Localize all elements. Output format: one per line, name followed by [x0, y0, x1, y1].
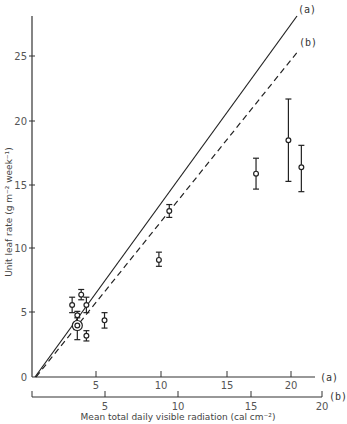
x-a-tick-label-20: 20	[285, 380, 298, 391]
x-a-tick-label-5: 5	[93, 380, 99, 391]
x-axis-a-label: (a)	[320, 372, 338, 383]
chart: 5 10 15 20 25 0 Unit leaf rate (g m⁻² we…	[0, 0, 347, 424]
point-marker	[299, 165, 304, 170]
point-marker	[79, 292, 84, 297]
x-axis-b-ticks	[32, 391, 322, 397]
point-marker	[75, 323, 80, 328]
y-tick-label-10: 10	[14, 243, 27, 254]
data-point	[69, 297, 75, 312]
y-axis-title: Unit leaf rate (g m⁻² week⁻¹)	[4, 147, 14, 277]
point-marker	[84, 333, 89, 338]
line-a-label: (a)	[298, 4, 316, 15]
x-b-tick-label-10: 10	[172, 401, 185, 412]
point-marker	[286, 138, 291, 143]
point-marker	[84, 303, 89, 308]
data-point	[298, 145, 304, 191]
x-b-tick-label-15: 15	[245, 401, 258, 412]
origin-label: 0	[21, 372, 27, 383]
x-axis-a-ticks	[96, 371, 291, 377]
y-tick-label-5: 5	[21, 307, 27, 318]
data-point	[156, 252, 162, 266]
x-axis-title: Mean total daily visible radiation (cal …	[81, 412, 276, 422]
data-point	[78, 289, 84, 299]
point-marker	[70, 303, 75, 308]
data-point	[83, 297, 89, 312]
point-marker	[102, 318, 107, 323]
data-point	[166, 205, 172, 218]
data-point	[285, 99, 291, 181]
data-points	[69, 99, 304, 341]
x-a-tick-label-10: 10	[155, 380, 168, 391]
line-b-label: (b)	[299, 37, 317, 48]
point-marker	[157, 257, 162, 262]
y-tick-label-15: 15	[14, 180, 27, 191]
y-tick-label-20: 20	[14, 116, 27, 127]
point-marker	[75, 313, 80, 318]
data-point	[83, 331, 89, 341]
data-point	[102, 313, 108, 328]
point-marker	[254, 171, 259, 176]
x-b-tick-label-5: 5	[102, 401, 108, 412]
x-a-tick-label-15: 15	[221, 380, 234, 391]
x-axis-b-label: (b)	[329, 391, 347, 402]
point-marker	[167, 209, 172, 214]
x-b-tick-label-20: 20	[316, 401, 329, 412]
y-tick-label-25: 25	[14, 51, 27, 62]
data-point	[253, 158, 259, 189]
